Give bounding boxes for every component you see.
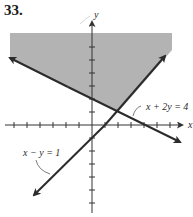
line-x-minus-y-eq-1-left (34, 125, 105, 195)
y-axis-label: y (93, 9, 99, 20)
label-x-plus-2y-eq-4: x + 2y = 4 (145, 101, 188, 112)
x-axis-label: x (187, 119, 193, 130)
leader-x-plus-2y (133, 106, 141, 116)
graph: x y x + 2y = 4 x − y = 1 (0, 0, 193, 217)
leader-x-minus-y (36, 160, 50, 174)
x-axis: x (5, 119, 193, 130)
label-x-minus-y-eq-1: x − y = 1 (22, 147, 60, 158)
